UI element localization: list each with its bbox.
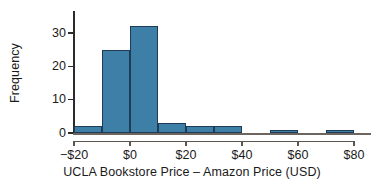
x-axis-tick-mark	[129, 141, 130, 146]
y-axis-tick-mark	[68, 99, 73, 101]
x-axis-title: UCLA Bookstore Price – Amazon Price (USD…	[0, 165, 384, 179]
x-axis-tick-label: $80	[324, 149, 384, 162]
y-axis-tick-label: 30	[26, 27, 66, 40]
x-axis-tick-label: −$20	[44, 149, 104, 162]
histogram-bar	[214, 126, 242, 133]
x-axis-tick-label: $40	[212, 149, 272, 162]
x-axis-tick-mark	[185, 141, 186, 146]
x-axis-tick-label: $0	[100, 149, 160, 162]
y-axis-tick-mark	[68, 66, 73, 68]
histogram-bar	[102, 50, 130, 133]
x-axis-spine	[73, 133, 371, 135]
histogram-bar	[158, 123, 186, 133]
y-axis-tick-label: 10	[26, 93, 66, 106]
x-axis-tick-mark	[297, 141, 298, 146]
y-axis-tick-label: 0	[26, 127, 66, 140]
y-axis-tick-mark	[68, 32, 73, 34]
x-axis-tick-mark	[241, 141, 242, 146]
histogram-figure: Frequency 0102030 −$20$0$20$40$60$80 UCL…	[0, 0, 384, 186]
x-axis-tick-label: $20	[156, 149, 216, 162]
histogram-bar	[326, 130, 354, 133]
y-axis-tick-mark	[68, 132, 73, 134]
y-axis-tick-label: 20	[26, 60, 66, 73]
histogram-bar	[186, 126, 214, 133]
x-axis-tick-mark	[73, 141, 74, 146]
x-axis-tick-rail	[74, 141, 355, 142]
histogram-bar	[270, 130, 298, 133]
histogram-bar	[130, 26, 158, 133]
x-axis-tick-label: $60	[268, 149, 328, 162]
plot-area	[74, 11, 354, 133]
x-axis-tick-mark	[353, 141, 354, 146]
histogram-bar	[74, 126, 102, 133]
